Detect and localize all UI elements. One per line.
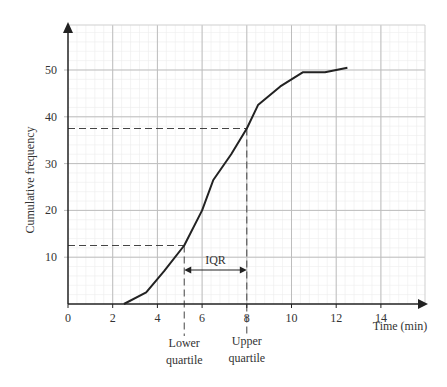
axes — [63, 22, 428, 309]
x-axis-label: Time (min) — [373, 319, 428, 333]
major-grid — [64, 25, 425, 304]
lower-quartile-label: Lower — [169, 336, 200, 350]
lower-quartile-label-2: quartile — [166, 353, 203, 367]
y-axis-arrow-icon — [63, 22, 73, 33]
x-tick-label: 10 — [286, 311, 298, 325]
y-tick-label: 40 — [45, 110, 57, 124]
y-axis-label: Cumulative frequency — [23, 127, 37, 234]
x-tick-label: 0 — [65, 311, 71, 325]
x-tick-labels: 02468101214 — [65, 304, 387, 325]
y-tick-label: 30 — [45, 157, 57, 171]
y-tick-label: 50 — [45, 63, 57, 77]
iqr-arrow-right-icon — [240, 267, 247, 274]
iqr-label: IQR — [205, 253, 226, 267]
y-tick-label: 10 — [45, 250, 57, 264]
x-axis-arrow-icon — [418, 299, 428, 309]
iqr-annotation: IQR — [184, 253, 247, 274]
x-tick-label: 12 — [330, 311, 342, 325]
x-tick-label: 8 — [244, 311, 250, 325]
x-tick-label: 2 — [110, 311, 116, 325]
x-tick-label: 4 — [154, 311, 160, 325]
cumulative-frequency-chart: 02468101214 1020304050 Time (min) Cumula… — [0, 0, 447, 387]
upper-quartile-label-2: quartile — [228, 351, 265, 365]
upper-quartile-label: Upper — [232, 334, 262, 348]
y-tick-labels: 1020304050 — [45, 63, 57, 264]
iqr-arrow-left-icon — [184, 267, 191, 274]
x-tick-label: 6 — [199, 311, 205, 325]
y-tick-label: 20 — [45, 203, 57, 217]
